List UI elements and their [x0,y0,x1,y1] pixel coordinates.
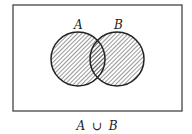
caption-set-a: A [75,119,85,133]
caption-union-operator: ∪ [92,119,102,133]
caption-set-b: B [108,119,118,133]
set-a-label: A [73,18,83,32]
set-b-circle [90,32,144,86]
caption: A ∪ B [75,119,117,133]
set-b-label: B [113,18,123,32]
venn-diagram: A B A ∪ B [0,0,192,134]
